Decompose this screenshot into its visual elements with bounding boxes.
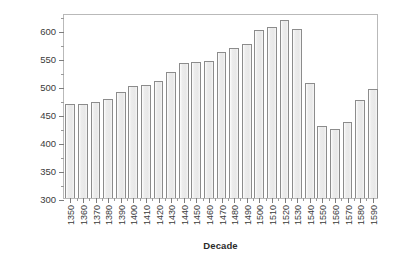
x-axis-tick: 1550 <box>322 198 323 203</box>
x-axis-tick-label: 1460 <box>205 205 215 225</box>
x-axis-tick: 1480 <box>234 198 235 203</box>
y-axis-tick: 600 <box>59 32 64 33</box>
x-axis-tick: 1510 <box>272 198 273 203</box>
x-axis-tick-label: 1580 <box>356 205 366 225</box>
x-axis-tick: 1560 <box>335 198 336 203</box>
x-axis-tick: 1410 <box>146 198 147 203</box>
x-axis-minor-tick <box>240 198 241 201</box>
x-axis-tick-label: 1350 <box>66 205 76 225</box>
x-axis-tick: 1400 <box>133 198 134 203</box>
x-axis-tick: 1580 <box>360 198 361 203</box>
x-axis-tick: 1350 <box>70 198 71 203</box>
x-axis-tick: 1430 <box>171 198 172 203</box>
x-axis-tick-label: 1590 <box>369 205 379 225</box>
x-axis-tick-label: 1540 <box>306 205 316 225</box>
bar <box>330 129 340 198</box>
bar <box>103 99 113 198</box>
bar <box>292 29 302 198</box>
x-axis-minor-tick <box>291 198 292 201</box>
x-axis-tick: 1470 <box>222 198 223 203</box>
x-axis-tick: 1570 <box>348 198 349 203</box>
x-axis-tick: 1460 <box>209 198 210 203</box>
x-axis-tick-label: 1370 <box>92 205 102 225</box>
x-axis-tick: 1380 <box>108 198 109 203</box>
x-axis-minor-tick <box>316 198 317 201</box>
x-axis-tick: 1450 <box>196 198 197 203</box>
x-axis-tick-label: 1530 <box>293 205 303 225</box>
y-axis-tick: 400 <box>59 144 64 145</box>
x-axis-tick-label: 1470 <box>218 205 228 225</box>
x-axis-tick-label: 1490 <box>243 205 253 225</box>
y-axis-tick-label: 550 <box>40 54 56 65</box>
bar <box>267 27 277 198</box>
x-axis-tick-label: 1440 <box>180 205 190 225</box>
plot-area: 3003504004505005506001350136013701380139… <box>63 14 378 199</box>
x-axis-tick-label: 1450 <box>192 205 202 225</box>
bar <box>179 63 189 198</box>
bar <box>204 61 214 198</box>
x-axis-title: Decade <box>63 240 378 251</box>
x-axis-minor-tick <box>329 198 330 201</box>
y-axis-minor-tick <box>61 158 64 159</box>
x-axis-minor-tick <box>140 198 141 201</box>
x-axis-tick: 1530 <box>297 198 298 203</box>
x-axis-minor-tick <box>278 198 279 201</box>
x-axis-minor-tick <box>102 198 103 201</box>
y-axis-tick: 450 <box>59 116 64 117</box>
x-axis-minor-tick <box>114 198 115 201</box>
x-axis-tick-label: 1570 <box>344 205 354 225</box>
x-axis-tick-label: 1520 <box>281 205 291 225</box>
bar <box>368 89 378 198</box>
bar <box>154 81 164 198</box>
x-axis-tick: 1590 <box>373 198 374 203</box>
x-axis-tick-label: 1560 <box>331 205 341 225</box>
x-axis-minor-tick <box>152 198 153 201</box>
bar <box>128 86 138 198</box>
x-axis-tick-label: 1390 <box>117 205 127 225</box>
x-axis-minor-tick <box>190 198 191 201</box>
x-axis-tick-label: 1410 <box>142 205 152 225</box>
bar <box>242 44 252 198</box>
x-axis-tick: 1360 <box>83 198 84 203</box>
y-axis-tick: 300 <box>59 200 64 201</box>
x-axis-minor-tick <box>253 198 254 201</box>
x-axis-tick-label: 1430 <box>167 205 177 225</box>
x-axis-minor-tick <box>228 198 229 201</box>
x-axis-tick-label: 1500 <box>255 205 265 225</box>
y-axis-minor-tick <box>61 74 64 75</box>
x-axis-tick-label: 1420 <box>155 205 165 225</box>
bar <box>343 122 353 198</box>
y-axis-minor-tick <box>61 130 64 131</box>
x-axis-minor-tick <box>77 198 78 201</box>
bar <box>166 72 176 198</box>
y-axis-tick: 500 <box>59 88 64 89</box>
x-axis-tick-label: 1510 <box>268 205 278 225</box>
x-axis-minor-tick <box>165 198 166 201</box>
x-axis-tick: 1520 <box>285 198 286 203</box>
y-axis-minor-tick <box>61 46 64 47</box>
y-axis-minor-tick <box>61 186 64 187</box>
y-axis-tick-label: 600 <box>40 26 56 37</box>
bar <box>229 48 239 198</box>
y-axis-tick-label: 400 <box>40 138 56 149</box>
y-axis-minor-tick <box>61 102 64 103</box>
x-axis-minor-tick <box>89 198 90 201</box>
x-axis-tick: 1500 <box>259 198 260 203</box>
bar <box>116 92 126 199</box>
bar <box>217 52 227 198</box>
x-axis-tick-label: 1480 <box>230 205 240 225</box>
x-axis-tick: 1490 <box>247 198 248 203</box>
x-axis-minor-tick <box>127 198 128 201</box>
y-axis-tick: 350 <box>59 172 64 173</box>
bar <box>280 20 290 198</box>
y-axis-tick-label: 500 <box>40 82 56 93</box>
bar <box>355 100 365 198</box>
x-axis-tick: 1440 <box>184 198 185 203</box>
x-axis-minor-tick <box>177 198 178 201</box>
bar <box>141 85 151 198</box>
bar <box>254 30 264 198</box>
x-axis-tick-label: 1360 <box>79 205 89 225</box>
x-axis-tick: 1390 <box>121 198 122 203</box>
x-axis-tick-label: 1380 <box>104 205 114 225</box>
x-axis-minor-tick <box>354 198 355 201</box>
